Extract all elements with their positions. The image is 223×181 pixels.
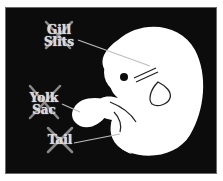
label-yolk-sac: Yolk Sac (28, 92, 60, 116)
eye-dot (120, 73, 128, 81)
label-tail: Tail (44, 134, 76, 146)
yolk-sac-shape (72, 98, 115, 127)
label-tail-line1: Tail (44, 134, 76, 146)
label-gill-slits: Gill Slits (43, 24, 75, 48)
label-yolk-sac-line2: Sac (28, 104, 60, 116)
label-gill-slits-line2: Slits (43, 36, 75, 48)
